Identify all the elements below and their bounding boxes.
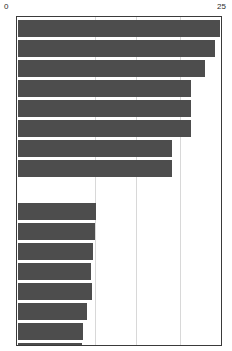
x-axis-tick-labels: 0 25 (0, 0, 232, 17)
plot-area (16, 16, 222, 346)
bar-row (17, 301, 221, 321)
bar-row (17, 241, 221, 261)
upper-group (17, 18, 221, 178)
bar-row (17, 98, 221, 118)
bar (18, 203, 96, 220)
bar (18, 263, 91, 280)
bar-row (17, 221, 221, 241)
bar (18, 20, 220, 37)
bar-row (17, 158, 221, 178)
bar (18, 223, 95, 240)
bar-row (17, 18, 221, 38)
x-axis-max-tick-label: 25 (196, 2, 226, 12)
bar (18, 283, 92, 300)
bar (18, 80, 191, 97)
bar (18, 100, 191, 117)
bar-row (17, 118, 221, 138)
bar-row (17, 38, 221, 58)
bar (18, 60, 205, 77)
bar (18, 40, 215, 57)
bar-row (17, 58, 221, 78)
bar (18, 243, 93, 260)
bar (18, 343, 82, 346)
bar (18, 323, 83, 340)
bar-row (17, 201, 221, 221)
bar (18, 303, 87, 320)
lower-group (17, 201, 221, 346)
bar-row (17, 261, 221, 281)
bar-series (17, 17, 221, 345)
bar-chart: 0 25 (0, 0, 232, 351)
bar (18, 120, 191, 137)
bar-row (17, 138, 221, 158)
bar-row (17, 78, 221, 98)
bar-row (17, 321, 221, 341)
bar (18, 160, 172, 177)
bar-row (17, 341, 221, 346)
bar-row (17, 281, 221, 301)
bar (18, 140, 172, 157)
x-axis-min-tick-label: 0 (4, 2, 8, 12)
